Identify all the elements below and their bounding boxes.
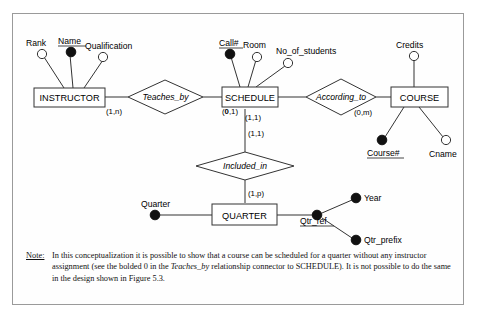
cardinality-instructor-teaches-by: (1,n) (106, 107, 122, 116)
attribute-circle-rank (37, 49, 46, 58)
note-emphasis: Teaches_by (171, 262, 209, 271)
connector-coursenum (385, 107, 404, 137)
attribute-circle-credits (409, 51, 418, 60)
entity-label-course: COURSE (400, 93, 439, 103)
connector-cname (419, 107, 443, 137)
relationship-label-included-in: Included_in (223, 161, 267, 171)
attribute-label-quarter-attr: Quarter (141, 199, 170, 209)
attribute-label-qualification: Qualification (85, 41, 133, 51)
attribute-circle-qualification (98, 52, 107, 61)
attribute-circle-coursenum (377, 135, 387, 145)
attribute-circle-name (66, 47, 76, 57)
connector-name (70, 55, 73, 88)
attribute-circle-cname (441, 135, 450, 144)
cardinality-according-to-course: (0,m) (354, 108, 373, 117)
entity-label-quarter: QUARTER (222, 211, 267, 221)
attribute-label-year: Year (364, 193, 382, 203)
attribute-label-credits: Credits (396, 40, 423, 50)
connector-year (322, 200, 352, 213)
connector-room (248, 60, 256, 87)
cardinality-schedule-according-to: (1,1) (245, 113, 261, 122)
connector-rank (44, 57, 64, 88)
cardinality-teaches-by-schedule: (0,1) (222, 107, 238, 116)
attribute-circle-callnum (225, 49, 235, 59)
entity-label-schedule: SCHEDULE (225, 93, 275, 103)
attribute-label-qtr-prefix: Qtr_prefix (364, 235, 402, 245)
attribute-label-cname: Cname (429, 149, 457, 159)
attribute-circle-room (252, 52, 261, 61)
figure-note: Note: In this conceptualization it is po… (26, 250, 454, 284)
attribute-label-rank: Rank (26, 38, 47, 48)
attribute-label-coursenum: Course# (367, 148, 400, 158)
attribute-circle-quarter-attr (150, 210, 160, 220)
note-label: Note: (26, 250, 44, 261)
note-body: In this conceptualization it is possible… (26, 250, 454, 284)
attribute-label-qtr-ref: Qtr_ref (300, 216, 327, 226)
relationship-label-according-to: According_to (315, 92, 366, 102)
attribute-label-name: Name (58, 36, 81, 46)
attribute-label-room: Room (243, 40, 266, 50)
er-diagram-figure: INSTRUCTOR SCHEDULE COURSE QUARTER Teach… (0, 0, 477, 323)
attribute-label-no-of-students: No_of_students (276, 46, 336, 56)
entity-label-instructor: INSTRUCTOR (39, 93, 99, 103)
cardinality-schedule-included-in: (1,1) (248, 129, 264, 138)
relationship-label-teaches-by: Teaches_by (142, 92, 189, 102)
connector-no-of-students (256, 66, 285, 87)
cardinality-included-in-quarter: (1,p) (248, 189, 264, 198)
attribute-circle-qtr-prefix (351, 235, 361, 245)
connector-qualification (84, 60, 103, 88)
attribute-circle-no-of-students (283, 58, 292, 67)
connector-callnum (231, 57, 240, 87)
attribute-label-callnum: Call# (219, 38, 239, 48)
attribute-circle-year (351, 193, 361, 203)
